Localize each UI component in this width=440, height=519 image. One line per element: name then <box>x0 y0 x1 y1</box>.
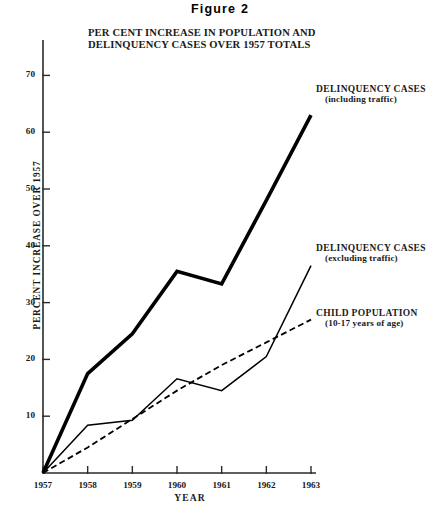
y-axis-tick-label: 50 <box>9 183 35 193</box>
x-axis-tick-label: 1958 <box>68 480 108 490</box>
x-axis-tick-label: 1960 <box>157 480 197 490</box>
axis-lines <box>43 40 316 473</box>
annotation-child-population: CHILD POPULATION (10-17 years of age) <box>316 308 418 328</box>
y-axis-tick-label: 30 <box>9 297 35 307</box>
series-line-dashed <box>43 320 311 473</box>
y-axis-tick-label: 70 <box>9 69 35 79</box>
y-axis-tick-label: 40 <box>9 240 35 250</box>
annotation-delinquency-excluding-traffic: DELINQUENCY CASES (excluding traffic) <box>316 243 426 263</box>
x-axis-tick-label: 1963 <box>291 480 331 490</box>
annotation-delinquency-including-traffic: DELINQUENCY CASES (including traffic) <box>316 84 426 104</box>
y-axis-tick-label: 10 <box>9 410 35 420</box>
y-axis-tick-label: 60 <box>9 126 35 136</box>
figure-container: Figure 2 PER CENT INCREASE IN POPULATION… <box>0 0 440 519</box>
series-line-solid-thick <box>43 115 311 473</box>
annotation-main-label: CHILD POPULATION <box>316 308 418 318</box>
x-axis-tick-label: 1961 <box>202 480 242 490</box>
x-axis-tick-label: 1959 <box>112 480 152 490</box>
annotation-main-label: DELINQUENCY CASES <box>316 243 426 253</box>
series-line-solid-thin <box>43 266 311 473</box>
annotation-sub-label: (excluding traffic) <box>316 253 426 263</box>
annotation-sub-label: (10-17 years of age) <box>316 318 418 328</box>
annotation-sub-label: (including traffic) <box>316 94 426 104</box>
y-axis-tick-label: 20 <box>9 353 35 363</box>
chart-series-layer <box>43 115 311 473</box>
x-axis-tick-label: 1962 <box>246 480 286 490</box>
annotation-main-label: DELINQUENCY CASES <box>316 84 426 94</box>
x-axis-tick-label: 1957 <box>23 480 63 490</box>
